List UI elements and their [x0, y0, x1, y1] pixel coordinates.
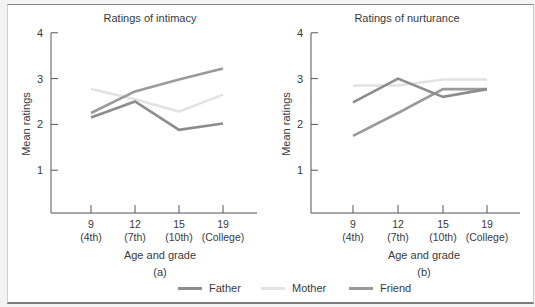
- intimacy-x-axis-label: Age and grade: [124, 249, 196, 261]
- legend-item-mother: Mother: [261, 282, 326, 294]
- intimacy-x-tick-sublabel: (College): [202, 231, 245, 243]
- intimacy-line-mother: [91, 89, 223, 112]
- intimacy-y-tick-label: 3: [37, 73, 43, 85]
- nurturance-x-tick-label: 12: [392, 218, 404, 230]
- nurturance-x-tick-sublabel: (College): [466, 231, 509, 243]
- nurturance-panel-label: (b): [417, 266, 430, 278]
- legend-item-father: Father: [178, 282, 241, 294]
- intimacy-x-tick-sublabel: (10th): [165, 231, 192, 243]
- legend-label-friend: Friend: [380, 282, 411, 294]
- nurturance-y-tick-label: 1: [297, 164, 303, 176]
- intimacy-x-tick-label: 19: [217, 218, 229, 230]
- nurturance-x-tick-sublabel: (10th): [429, 231, 456, 243]
- nurturance-chart-title: Ratings of nurturance: [354, 12, 459, 24]
- legend: Father Mother Friend: [0, 282, 535, 298]
- charts-canvas: Ratings of intimacy1234Mean ratings9(4th…: [0, 0, 535, 307]
- legend-swatch-father: [178, 287, 202, 290]
- legend-label-father: Father: [209, 282, 241, 294]
- intimacy-y-tick-label: 4: [37, 27, 43, 39]
- legend-label-mother: Mother: [292, 282, 326, 294]
- nurturance-x-tick-label: 9: [350, 218, 356, 230]
- intimacy-x-tick-label: 9: [88, 218, 94, 230]
- nurturance-line-friend: [353, 89, 487, 136]
- legend-swatch-mother: [261, 287, 285, 290]
- intimacy-panel-label: (a): [153, 266, 166, 278]
- intimacy-chart-title: Ratings of intimacy: [104, 12, 197, 24]
- intimacy-y-tick-label: 2: [37, 118, 43, 130]
- intimacy-x-tick-sublabel: (4th): [80, 231, 102, 243]
- intimacy-x-tick-sublabel: (7th): [124, 231, 146, 243]
- nurturance-y-tick-label: 3: [297, 73, 303, 85]
- nurturance-line-mother: [353, 80, 487, 86]
- intimacy-x-tick-label: 12: [129, 218, 141, 230]
- nurturance-y-axis-label: Mean ratings: [280, 92, 292, 156]
- nurturance-x-tick-label: 19: [481, 218, 493, 230]
- nurturance-y-tick-label: 2: [297, 118, 303, 130]
- intimacy-y-axis-label: Mean ratings: [20, 92, 32, 156]
- intimacy-y-tick-label: 1: [37, 164, 43, 176]
- nurturance-x-tick-label: 15: [437, 218, 449, 230]
- legend-swatch-friend: [349, 287, 373, 290]
- nurturance-x-tick-sublabel: (4th): [342, 231, 364, 243]
- nurturance-x-axis-label: Age and grade: [388, 249, 460, 261]
- nurturance-y-tick-label: 4: [297, 27, 303, 39]
- nurturance-x-tick-sublabel: (7th): [387, 231, 409, 243]
- legend-item-friend: Friend: [349, 282, 411, 294]
- intimacy-x-tick-label: 15: [173, 218, 185, 230]
